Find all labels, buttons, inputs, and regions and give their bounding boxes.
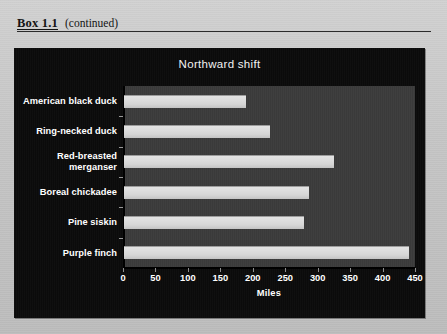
x-axis-tick <box>415 268 416 272</box>
y-axis-tick <box>119 207 123 208</box>
bar-track <box>123 147 415 177</box>
y-axis-tick <box>119 116 123 117</box>
category-label: Boreal chickadee <box>14 187 123 198</box>
bar-row: Boreal chickadee <box>14 177 425 207</box>
y-axis-tick <box>119 147 123 148</box>
x-axis-tick-label: 350 <box>342 273 358 283</box>
x-axis-tick-label: 150 <box>213 273 229 283</box>
bar-row: Red-breasted merganser <box>14 147 425 177</box>
bar <box>124 246 409 259</box>
bar <box>124 125 270 138</box>
bar-track <box>123 177 415 207</box>
chart-title: Northward shift <box>14 58 425 70</box>
box-header-line: Box 1.1(continued) <box>17 16 118 30</box>
bar-track <box>123 116 415 146</box>
x-axis-tick <box>383 268 384 272</box>
x-axis-tick <box>220 268 221 272</box>
bar-track <box>123 238 415 268</box>
bar <box>124 186 309 199</box>
bar <box>124 155 334 168</box>
x-axis-tick-label: 200 <box>245 273 261 283</box>
x-axis-tick-label: 300 <box>310 273 326 283</box>
x-axis-tick-label: 450 <box>407 273 423 283</box>
bar <box>124 95 246 108</box>
x-axis-tick-labels: 050100150200250300350400450 <box>14 273 425 287</box>
x-axis-tick-label: 50 <box>150 273 160 283</box>
x-axis-tick <box>123 268 124 272</box>
x-axis-tick-label: 0 <box>120 273 125 283</box>
x-axis-title: Miles <box>123 288 415 298</box>
bar-track <box>123 86 415 116</box>
x-axis-tick-label: 250 <box>277 273 293 283</box>
screenshot-root: Box 1.1(continued) Northward shift Ameri… <box>0 0 447 334</box>
chart-panel: Northward shift American black duckRing-… <box>14 48 425 318</box>
x-axis-tick <box>318 268 319 272</box>
bar-rows: American black duckRing-necked duckRed-b… <box>14 86 425 268</box>
category-label: Red-breasted merganser <box>14 151 123 172</box>
bar-track <box>123 207 415 237</box>
box-number-label: Box 1.1 <box>17 16 58 30</box>
x-axis-tick <box>253 268 254 272</box>
category-label: Pine siskin <box>14 217 123 228</box>
bar-row: Ring-necked duck <box>14 116 425 146</box>
bar-row: Purple finch <box>14 238 425 268</box>
x-axis-tick <box>350 268 351 272</box>
x-axis-tick <box>285 268 286 272</box>
bar-row: American black duck <box>14 86 425 116</box>
y-axis-tick <box>119 177 123 178</box>
category-label: Purple finch <box>14 248 123 259</box>
bar-row: Pine siskin <box>14 207 425 237</box>
category-label: American black duck <box>14 96 123 107</box>
x-axis-tick <box>155 268 156 272</box>
x-axis-tick <box>188 268 189 272</box>
bar <box>124 216 304 229</box>
category-label: Ring-necked duck <box>14 126 123 137</box>
header-divider <box>17 31 431 32</box>
y-axis-tick <box>119 238 123 239</box>
x-axis-tick-label: 400 <box>375 273 391 283</box>
box-continued-label: (continued) <box>65 17 118 29</box>
x-axis-tick-label: 100 <box>180 273 196 283</box>
